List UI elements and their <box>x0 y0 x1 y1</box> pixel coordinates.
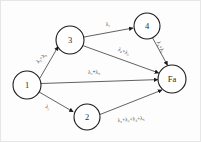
diagram-canvas: 1 2 3 4 Fa λ₂+λ₃ λ₁ λ₄+λ₅ <box>0 0 201 142</box>
edge-label-1-to-2: λ₁ <box>45 103 52 110</box>
node-2-label: 2 <box>85 112 89 122</box>
node-3[interactable]: 3 <box>56 26 84 54</box>
edge-label-1-to-fa: λ₄+λ₅ <box>88 69 100 75</box>
edge-label-2-to-fa: λ₂+λ₃+λ₄+λ₅ <box>117 115 145 123</box>
node-fa[interactable]: Fa <box>158 65 186 93</box>
node-fa-label: Fa <box>168 74 177 84</box>
node-1-label: 1 <box>25 80 29 90</box>
edge-label-3-to-4: λ₁ <box>106 21 111 27</box>
markov-state-diagram: 1 2 3 4 Fa λ₂+λ₃ λ₁ λ₄+λ₅ <box>0 0 201 142</box>
edge-3-to-4 <box>84 28 133 37</box>
node-1[interactable]: 1 <box>13 71 41 99</box>
node-4[interactable]: 4 <box>134 13 160 39</box>
node-2[interactable]: 2 <box>74 104 100 130</box>
edge-1-to-2 <box>39 92 73 112</box>
edge-1-to-fa <box>41 80 158 84</box>
edge-2-to-fa <box>100 90 162 115</box>
edge-label-1-to-3: λ₂+λ₃ <box>35 52 48 65</box>
edge-label-3-to-fa: λ₄+λ₅ <box>117 46 131 56</box>
node-3-label: 3 <box>68 35 72 45</box>
